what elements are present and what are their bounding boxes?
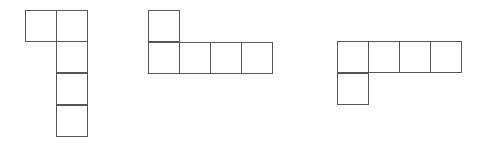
- square-cell: [210, 42, 242, 74]
- square-cell: [241, 42, 273, 74]
- square-cell: [25, 10, 57, 42]
- square-cell: [430, 41, 462, 73]
- square-cell: [337, 41, 369, 73]
- square-cell: [56, 105, 88, 137]
- square-cell: [399, 41, 431, 73]
- square-cell: [56, 41, 88, 73]
- square-cell: [337, 73, 369, 105]
- square-cell: [368, 41, 400, 73]
- square-cell: [148, 42, 180, 74]
- square-cell: [148, 10, 180, 42]
- square-cell: [56, 10, 88, 42]
- square-cell: [179, 42, 211, 74]
- square-cell: [56, 73, 88, 105]
